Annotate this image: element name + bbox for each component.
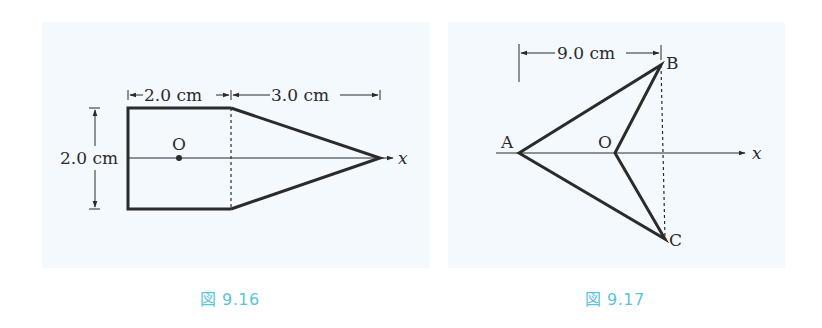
width-triangle-label: 3.0 cm (271, 85, 329, 105)
origin-label: O (598, 132, 612, 152)
dashed-line-bc (661, 65, 665, 239)
point-a-label: A (500, 132, 514, 152)
x-axis-label: x (398, 148, 408, 168)
point-c-label: C (669, 230, 682, 250)
width-rect-label: 2.0 cm (144, 85, 202, 105)
origin-point (176, 155, 182, 161)
height-label: 2.0 cm (60, 148, 118, 168)
figure-9-17: x A O B C 9.0 cm (496, 43, 762, 250)
figure-caption-9-16: 図 9.16 (200, 286, 260, 310)
arrowhead-outline (519, 65, 665, 239)
point-b-label: B (666, 53, 679, 73)
distance-label: 9.0 cm (557, 43, 615, 63)
figure-9-16: x O 2.0 cm 3.0 cm 2.0 cm (60, 85, 408, 209)
figure-caption-9-17: 図 9.17 (585, 286, 645, 310)
origin-label: O (172, 134, 186, 154)
x-axis-label: x (752, 143, 762, 163)
diagram-canvas: x O 2.0 cm 3.0 cm 2.0 cm x A (0, 0, 822, 328)
